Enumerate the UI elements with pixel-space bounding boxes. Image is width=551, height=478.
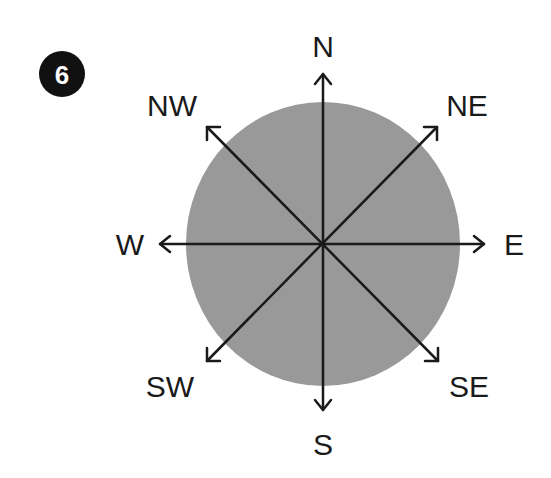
label-southeast: SE	[449, 370, 489, 403]
label-northeast: NE	[446, 89, 488, 122]
badge-number: 6	[55, 60, 69, 90]
label-northwest: NW	[147, 89, 198, 122]
step-number-badge: 6	[39, 51, 85, 97]
label-southwest: SW	[146, 370, 195, 403]
label-north: N	[312, 30, 334, 63]
label-east: E	[504, 228, 524, 261]
label-west: W	[116, 228, 145, 261]
compass-rose-diagram: 6 N NE E SE S SW W NW	[0, 0, 551, 478]
label-south: S	[313, 428, 333, 461]
